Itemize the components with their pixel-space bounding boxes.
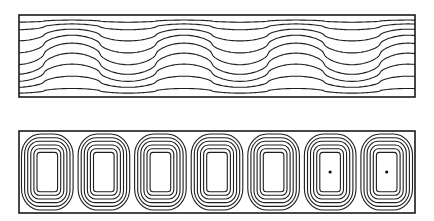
streamline — [260, 149, 287, 196]
convection-cell — [304, 134, 356, 210]
streamline — [94, 152, 115, 191]
convection-cell — [361, 134, 413, 210]
convection-cell — [22, 134, 74, 210]
streamline — [81, 138, 126, 207]
streamline — [147, 149, 174, 196]
streamline — [207, 152, 228, 191]
streamline — [257, 145, 290, 199]
isotherm-line — [19, 89, 415, 94]
streamline — [251, 138, 296, 207]
streamline — [25, 138, 70, 207]
convection-cell — [78, 134, 130, 210]
streamline — [204, 149, 231, 196]
cell-center-dot — [385, 170, 388, 173]
isotherm-line — [19, 53, 415, 74]
streamline — [144, 145, 177, 199]
streamline — [263, 152, 284, 191]
convection-cell — [248, 134, 300, 210]
isotherm-line — [19, 20, 415, 22]
figure — [0, 0, 434, 221]
streamline — [90, 149, 117, 196]
streamline — [194, 138, 239, 207]
isotherm-panel — [19, 15, 415, 97]
streamline — [138, 138, 183, 207]
convection-cell — [191, 134, 243, 210]
streamline — [201, 145, 234, 199]
convection-cells-panel — [19, 131, 415, 213]
streamline — [34, 149, 61, 196]
streamline — [150, 152, 171, 191]
streamline — [31, 145, 64, 199]
convection-cell — [135, 134, 187, 210]
isotherm-line — [19, 64, 415, 81]
cell-center-dot — [329, 170, 332, 173]
streamline — [87, 145, 120, 199]
streamline — [37, 152, 58, 191]
